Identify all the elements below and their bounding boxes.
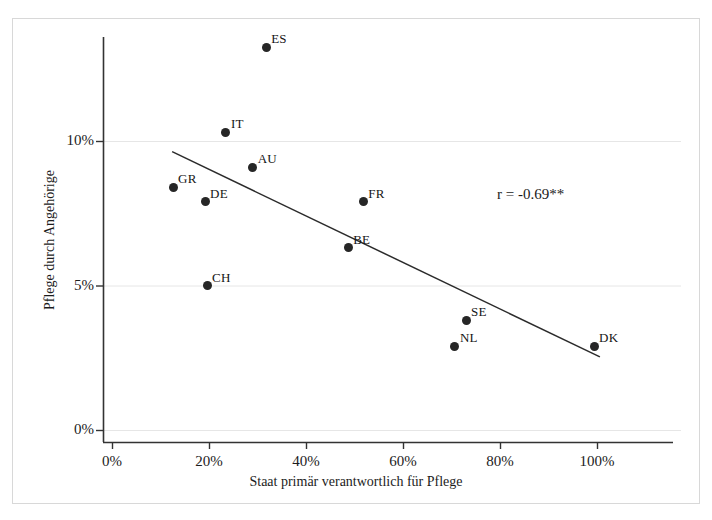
x-tick-label-0%: 0% — [72, 453, 152, 470]
scatter-plot-figure: ESITAUGRDEFRBECHSENLDK 0%5%10% 0%20%40%6… — [0, 0, 712, 520]
axes-group — [96, 37, 673, 449]
data-point-fr — [359, 197, 368, 206]
y-axis-title-wrapper: Pflege durch Angehörige — [42, 0, 82, 440]
data-point-label-de: DE — [210, 186, 228, 202]
data-point-dk — [590, 342, 599, 351]
data-point-de — [201, 197, 210, 206]
x-tick-label-20%: 20% — [169, 453, 249, 470]
x-tick-label-60%: 60% — [363, 453, 443, 470]
x-axis-title: Staat primär verantwortlich für Pflege — [0, 474, 712, 490]
data-point-es — [262, 43, 271, 52]
data-point-label-ch: CH — [212, 270, 230, 286]
regression-line — [172, 152, 600, 357]
trendline — [172, 152, 600, 357]
data-point-label-gr: GR — [178, 171, 196, 187]
data-point-label-be: BE — [353, 232, 370, 248]
data-point-label-dk: DK — [599, 330, 618, 346]
plot-canvas — [0, 0, 712, 520]
x-tick-label-40%: 40% — [266, 453, 346, 470]
data-point-label-es: ES — [271, 31, 287, 47]
data-point-au — [248, 163, 257, 172]
data-point-label-au: AU — [258, 151, 277, 167]
data-point-label-fr: FR — [368, 186, 384, 202]
data-point-label-it: IT — [231, 116, 244, 132]
data-point-se — [462, 316, 471, 325]
data-point-label-se: SE — [471, 304, 487, 320]
x-tick-label-100%: 100% — [557, 453, 637, 470]
y-axis-title: Pflege durch Angehörige — [42, 40, 58, 440]
data-point-gr — [169, 183, 178, 192]
x-tick-label-80%: 80% — [460, 453, 540, 470]
data-point-label-nl: NL — [460, 330, 478, 346]
data-point-ch — [203, 281, 212, 290]
correlation-annotation: r = -0.69** — [497, 186, 564, 203]
